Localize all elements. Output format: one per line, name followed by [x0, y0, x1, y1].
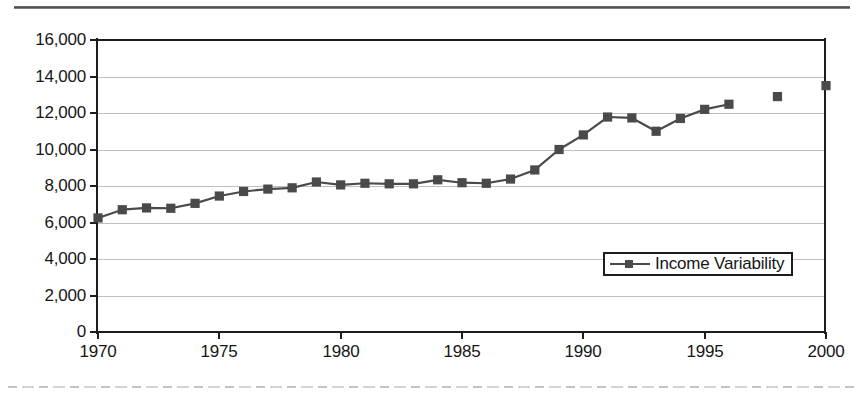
- data-point-marker: [724, 100, 733, 109]
- y-axis-label: 10,000: [2, 141, 86, 158]
- y-axis-label: 6,000: [2, 214, 86, 231]
- legend-marker-icon: [610, 257, 650, 271]
- plot-border-right: [824, 38, 826, 334]
- data-point-marker: [773, 92, 782, 101]
- data-point-marker: [166, 204, 175, 213]
- y-axis-label: 16,000: [2, 31, 86, 48]
- y-axis-label: 2,000: [2, 287, 86, 304]
- data-point-marker: [118, 205, 127, 214]
- x-axis-label: 2000: [791, 342, 861, 361]
- data-point-marker: [336, 180, 345, 189]
- data-point-marker: [409, 179, 418, 188]
- data-point-marker: [190, 199, 199, 208]
- gridline: [98, 223, 824, 224]
- data-point-marker: [385, 179, 394, 188]
- gridline: [98, 113, 824, 114]
- x-axis-tick: [582, 332, 584, 339]
- data-point-marker: [142, 203, 151, 212]
- data-point-marker: [627, 113, 636, 122]
- chart-page: 16,00014,00012,00010,0008,0006,0004,0002…: [0, 0, 863, 396]
- y-axis-label: 4,000: [2, 250, 86, 267]
- x-axis-tick: [461, 332, 463, 339]
- data-point-marker: [506, 174, 515, 183]
- y-axis-label: 14,000: [2, 68, 86, 85]
- data-point-marker: [288, 183, 297, 192]
- line-chart: 16,00014,00012,00010,0008,0006,0004,0002…: [0, 0, 863, 396]
- x-axis-label: 1980: [306, 342, 376, 361]
- gridline: [98, 77, 824, 78]
- data-point-marker: [215, 191, 224, 200]
- y-axis-line: [96, 38, 98, 334]
- gridline: [98, 186, 824, 187]
- plot-border-top: [96, 39, 826, 41]
- data-point-marker: [530, 165, 539, 174]
- x-axis-label: 1990: [548, 342, 618, 361]
- gridline: [98, 296, 824, 297]
- data-point-marker: [676, 114, 685, 123]
- series-line: [98, 104, 729, 218]
- x-axis-line: [96, 331, 826, 333]
- data-point-marker: [821, 81, 830, 90]
- x-axis-tick: [340, 332, 342, 339]
- series-income-variability: [0, 0, 863, 396]
- data-point-marker: [579, 130, 588, 139]
- gridline: [98, 150, 824, 151]
- x-axis-tick: [218, 332, 220, 339]
- chart-legend: Income Variability: [603, 252, 793, 276]
- y-axis-label: 12,000: [2, 104, 86, 121]
- x-axis-label: 1970: [63, 342, 133, 361]
- y-axis-label: 8,000: [2, 177, 86, 194]
- x-axis-label: 1975: [184, 342, 254, 361]
- data-point-marker: [239, 187, 248, 196]
- data-point-marker: [652, 127, 661, 136]
- x-axis-label: 1995: [670, 342, 740, 361]
- x-axis-tick: [704, 332, 706, 339]
- y-axis-label: 0: [2, 323, 86, 340]
- legend-label-income-variability: Income Variability: [655, 255, 784, 273]
- data-point-marker: [433, 175, 442, 184]
- x-axis-label: 1985: [427, 342, 497, 361]
